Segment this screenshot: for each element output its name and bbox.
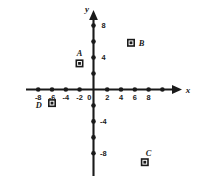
point-b-label: B xyxy=(138,39,145,48)
x-tick-dot xyxy=(105,87,110,92)
y-tick-dot xyxy=(91,135,96,140)
y-tick-dot xyxy=(91,55,96,60)
y-tick-dot xyxy=(91,71,96,76)
point-a-label: A xyxy=(76,49,83,58)
x-tick-label-minus2: -2 xyxy=(76,93,83,102)
y-tick-dot xyxy=(91,151,96,156)
x-tick-dot xyxy=(36,87,41,92)
point-b-marker-core xyxy=(130,41,133,44)
x-tick-label-plus2: 2 xyxy=(105,93,109,102)
y-axis-label: y xyxy=(84,4,90,14)
x-tick-dot xyxy=(119,87,124,92)
y-tick-dot xyxy=(91,103,96,108)
coordinate-plane-svg: x y xyxy=(0,0,200,181)
y-tick-dot xyxy=(91,23,96,28)
y-tick-label-plus8: 8 xyxy=(102,21,106,30)
point-d-label: D xyxy=(35,101,42,110)
y-axis-arrowhead xyxy=(89,10,98,20)
point-c-label: C xyxy=(146,149,152,158)
x-tick-label-minus4: -4 xyxy=(63,93,70,102)
y-tick-dot xyxy=(91,119,96,124)
x-axis-label: x xyxy=(185,85,191,95)
x-tick-label-plus8: 8 xyxy=(147,93,151,102)
point-c-marker-core xyxy=(143,161,146,164)
point-a-marker-core xyxy=(78,62,81,65)
plot-point-c: C xyxy=(142,149,152,166)
point-d-marker-core xyxy=(51,102,54,105)
y-tick-label-plus4: 4 xyxy=(102,53,107,62)
x-tick-dot xyxy=(77,87,82,92)
y-tick-label-minus8: -8 xyxy=(100,149,107,158)
plot-point-d: D xyxy=(35,100,55,110)
x-tick-dot xyxy=(133,87,138,92)
x-tick-dot xyxy=(160,87,165,92)
plot-point-a: A xyxy=(76,49,83,66)
x-tick-dot xyxy=(64,87,69,92)
y-tick-dot xyxy=(91,39,96,44)
y-tick-label-minus4: -4 xyxy=(100,117,107,126)
x-axis-arrowhead xyxy=(172,85,182,94)
origin-label: 0 xyxy=(87,93,91,102)
x-tick-label-plus6: 6 xyxy=(133,93,137,102)
coordinate-plane-figure: x y xyxy=(0,0,200,181)
plot-point-b: B xyxy=(128,39,145,48)
x-tick-dot xyxy=(50,87,55,92)
x-tick-dot xyxy=(146,87,151,92)
x-tick-label-plus4: 4 xyxy=(119,93,124,102)
